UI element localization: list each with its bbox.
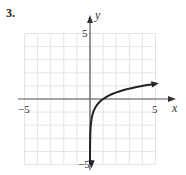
log-graph: −5 5 5 −5 x y [0, 0, 186, 175]
x-axis-label: x [171, 101, 178, 115]
x-axis [18, 96, 176, 102]
y-axis-arrow-icon [87, 15, 93, 23]
curve-arrow-right-icon [151, 81, 159, 87]
x-tick-max: 5 [152, 103, 158, 115]
y-tick-max: 5 [82, 27, 88, 39]
y-tick-min: −5 [78, 158, 90, 170]
x-tick-min: −5 [18, 103, 30, 115]
y-axis-label: y [94, 8, 101, 22]
